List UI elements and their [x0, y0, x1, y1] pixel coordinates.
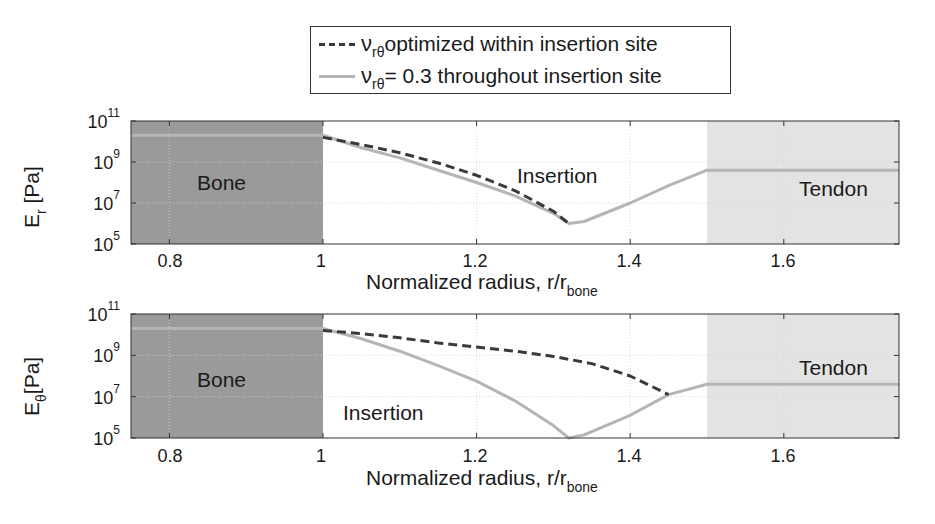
y-tick: 107	[80, 192, 120, 215]
plot-panel-0	[131, 121, 899, 244]
nu-symbol: ν	[361, 31, 372, 57]
ylabel-main: E	[20, 214, 43, 228]
y-axis-label-etheta: Eθ[Pa]	[20, 357, 44, 416]
region-label-insertion: Insertion	[517, 164, 598, 188]
legend-entry-constant: νrθ = 0.3 throughout insertion site	[319, 61, 662, 91]
region-label-insertion: Insertion	[343, 401, 424, 425]
y-tick: 109	[80, 151, 120, 174]
y-tick: 107	[80, 386, 120, 409]
legend-text: optimized within insertion site	[384, 32, 657, 56]
nu-symbol: ν	[361, 63, 372, 89]
y-tick: 105	[80, 233, 120, 256]
y-tick: 105	[80, 427, 120, 450]
x-tick: 1	[316, 251, 326, 272]
legend-text: = 0.3 throughout insertion site	[384, 64, 661, 88]
subscript: rθ	[372, 76, 384, 92]
region-label-tendon: Tendon	[799, 177, 868, 201]
x-tick: 1	[316, 446, 326, 467]
plot-panel-1	[131, 314, 899, 438]
x-tick: 1.4	[616, 251, 641, 272]
solid-line-swatch	[319, 75, 355, 78]
region-label-bone: Bone	[197, 368, 246, 392]
dashed-line-swatch	[319, 43, 355, 46]
region-label-bone: Bone	[197, 171, 246, 195]
y-axis-label-er: Er [Pa]	[20, 166, 44, 228]
x-tick: 1.4	[616, 446, 641, 467]
region-label-tendon: Tendon	[799, 356, 868, 380]
x-tick: 1.2	[462, 251, 487, 272]
legend-entry-optimized: νrθ optimized within insertion site	[319, 29, 658, 59]
x-axis-label: Normalized radius, r/rbone	[366, 270, 598, 294]
y-tick: 1011	[80, 303, 120, 326]
x-axis-label: Normalized radius, r/rbone	[366, 466, 598, 490]
ylabel-unit: [Pa]	[20, 166, 43, 209]
y-tick: 109	[80, 344, 120, 367]
x-tick: 0.8	[157, 446, 182, 467]
x-tick: 1.6	[770, 251, 795, 272]
x-tick: 0.8	[157, 251, 182, 272]
x-tick: 1.6	[770, 446, 795, 467]
x-tick: 1.2	[462, 446, 487, 467]
subscript: rθ	[372, 44, 384, 60]
ylabel-sub: r	[33, 209, 49, 214]
y-tick: 1011	[80, 110, 120, 133]
legend: νrθ optimized within insertion site νrθ …	[310, 26, 731, 94]
